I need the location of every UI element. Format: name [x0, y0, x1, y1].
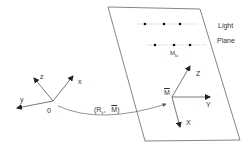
- plane-z-label: Z: [196, 70, 200, 77]
- plane-x-axis: [172, 97, 180, 127]
- plane-origin-label: M: [164, 89, 170, 96]
- light-plane-title-1: Light: [218, 22, 233, 29]
- plane-y-label: Y: [206, 101, 211, 108]
- plane-frame: [172, 66, 210, 127]
- world-origin-label: 0: [47, 107, 51, 114]
- plane-z-axis: [172, 66, 190, 97]
- world-z-axis: [34, 78, 53, 101]
- transform-close: ): [117, 106, 119, 113]
- world-x-axis: [53, 76, 73, 101]
- point-label-sub: ki: [175, 53, 178, 58]
- transform-label: (Rk, M): [94, 106, 119, 115]
- transform-comma: ,: [103, 106, 105, 113]
- light-stripe-upper: [137, 23, 196, 26]
- world-y-label: y: [20, 96, 24, 103]
- world-frame: [17, 76, 73, 108]
- point-label: Mki: [170, 50, 178, 58]
- light-plane-title-2: Plane: [217, 37, 235, 44]
- plane-x-label: X: [186, 119, 191, 126]
- world-z-label: z: [40, 73, 44, 80]
- world-x-label: x: [78, 78, 82, 85]
- diagram-canvas: [0, 0, 252, 151]
- light-stripe-lower: [147, 44, 206, 47]
